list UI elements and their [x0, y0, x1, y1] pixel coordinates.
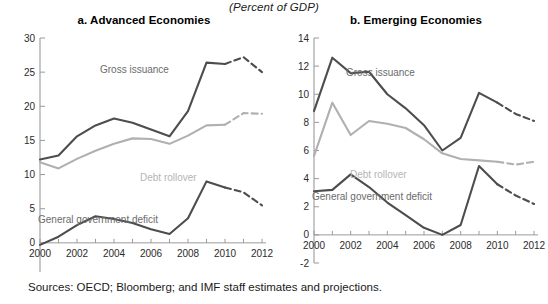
- series-line-debt-rollover: [314, 103, 497, 162]
- y-tick-label: 12: [298, 61, 310, 72]
- x-tick-label: 2006: [140, 248, 163, 259]
- annotation-debt-rollover: Debt rollover: [350, 169, 407, 180]
- chart-figure: (Percent of GDP) a. Advanced Economies -…: [0, 0, 548, 304]
- y-tick-label: 8: [303, 117, 309, 128]
- y-tick-label: 15: [24, 135, 36, 146]
- series-line-general-government-deficit-projection: [497, 184, 534, 204]
- x-tick-label: 2002: [340, 240, 363, 251]
- panel-advanced-economies: a. Advanced Economies -50510152025302000…: [0, 14, 276, 272]
- x-tick-label: 2002: [66, 248, 89, 259]
- y-tick-label: 14: [298, 33, 310, 44]
- panel-a-title: a. Advanced Economies: [0, 14, 276, 26]
- y-tick-label: 25: [24, 67, 36, 78]
- y-tick-label: 30: [24, 33, 36, 44]
- x-tick-label: 2004: [376, 240, 399, 251]
- source-note: Sources: OECD; Bloomberg; and IMF staff …: [28, 281, 382, 293]
- series-line-gross-issuance-projection: [225, 57, 262, 72]
- y-tick-label: 2: [303, 201, 309, 212]
- units-header: (Percent of GDP): [0, 1, 548, 13]
- series-line-gross-issuance-projection: [497, 103, 534, 121]
- y-tick-label: 0: [303, 229, 309, 240]
- panel-b-title: b. Emerging Economies: [276, 14, 548, 26]
- x-tick-label: 2006: [413, 240, 436, 251]
- x-tick-label: 2000: [303, 240, 326, 251]
- panel-a-plot: -505101520253020002002200420062008201020…: [0, 30, 276, 272]
- y-tick-label: 6: [303, 145, 309, 156]
- x-tick-label: 2004: [103, 248, 126, 259]
- x-tick-label: 2012: [523, 240, 546, 251]
- annotation-general-government-deficit: General government deficit: [312, 191, 432, 202]
- series-line-general-government-deficit-projection: [225, 188, 262, 206]
- x-tick-label: 2010: [486, 240, 509, 251]
- y-tick-label: 20: [24, 101, 36, 112]
- x-tick-label: 2008: [177, 248, 200, 259]
- annotation-gross-issuance: Gross issuance: [346, 67, 415, 78]
- annotation-general-government-deficit: General government deficit: [38, 214, 158, 225]
- x-tick-label: 2000: [29, 248, 52, 259]
- x-tick-label: 2010: [214, 248, 237, 259]
- annotation-debt-rollover: Debt rollover: [140, 172, 197, 183]
- y-tick-label: -2: [300, 258, 309, 269]
- y-tick-label: 4: [303, 173, 309, 184]
- y-tick-label: 5: [29, 203, 35, 214]
- series-line-debt-rollover-projection: [497, 162, 534, 165]
- x-tick-label: 2008: [450, 240, 473, 251]
- y-tick-label: 0: [29, 237, 35, 248]
- y-tick-label: 10: [298, 89, 310, 100]
- panel-b-plot: -202468101214200020022004200620082010201…: [276, 30, 548, 272]
- annotation-gross-issuance: Gross issuance: [100, 64, 169, 75]
- panel-emerging-economies: b. Emerging Economies -20246810121420002…: [276, 14, 548, 272]
- series-line-gross-issuance: [40, 63, 225, 160]
- y-tick-label: 10: [24, 169, 36, 180]
- x-tick-label: 2012: [251, 248, 274, 259]
- series-line-debt-rollover-projection: [225, 113, 262, 125]
